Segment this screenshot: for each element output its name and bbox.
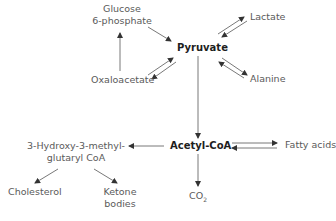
co2-label: CO — [189, 190, 203, 201]
node-label: Ketone — [100, 186, 140, 198]
node-label: 6-phosphate — [92, 15, 152, 27]
node-hmg-coa: 3-Hydroxy-3-methyl- glutaryl CoA — [26, 140, 126, 164]
node-label: 3-Hydroxy-3-methyl- — [26, 140, 126, 152]
node-cholesterol: Cholesterol — [8, 186, 62, 198]
node-pyruvate: Pyruvate — [177, 42, 228, 54]
co2-subscript: 2 — [203, 196, 207, 203]
node-ketone-bodies: Ketone bodies — [100, 186, 140, 210]
node-lactate: Lactate — [250, 11, 285, 23]
node-oxaloacetate: Oxaloacetate — [91, 74, 154, 86]
node-alanine: Alanine — [250, 73, 286, 85]
node-glucose-6-phosphate: Glucose 6-phosphate — [92, 3, 152, 27]
arrow-g6p-to-pyruvate — [148, 27, 171, 41]
arrow-hmgcoa-to-cholesterol — [35, 169, 58, 183]
node-label: glutaryl CoA — [26, 152, 126, 164]
node-acetyl-coa: Acetyl-CoA — [170, 140, 231, 152]
node-label: bodies — [100, 198, 140, 210]
node-label: Glucose — [92, 3, 152, 15]
arrow-hmgcoa-to-ketone — [94, 169, 117, 183]
node-co2: CO2 — [189, 190, 207, 206]
node-fatty-acids: Fatty acids — [285, 139, 336, 151]
